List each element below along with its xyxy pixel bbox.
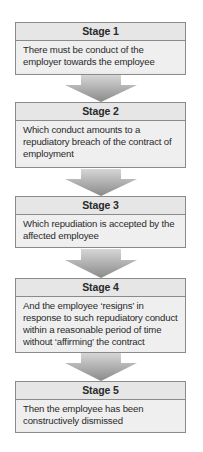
stage-4-title: Stage 4 <box>16 279 185 297</box>
down-arrow-icon <box>65 249 137 278</box>
stage-1-text: There must be conduct of the employer to… <box>16 41 185 72</box>
stage-3-box: Stage 3 Which repudiation is accepted by… <box>15 196 186 248</box>
stage-2-title: Stage 2 <box>16 103 185 121</box>
stage-5-text: Then the employee has been constructivel… <box>16 400 185 431</box>
stage-2-text: Which conduct amounts to a repudiatory b… <box>16 121 185 164</box>
stage-2-box: Stage 2 Which conduct amounts to a repud… <box>15 102 186 168</box>
stage-4-box: Stage 4 And the employee ‘resigns’ in re… <box>15 278 186 353</box>
stage-1-title: Stage 1 <box>16 23 185 41</box>
stage-5-title: Stage 5 <box>16 382 185 400</box>
stage-4-text: And the employee ‘resigns’ in response t… <box>16 297 185 352</box>
down-arrow-icon <box>65 169 137 196</box>
down-arrow-icon <box>65 75 137 102</box>
down-arrow-icon <box>65 353 137 381</box>
stage-3-title: Stage 3 <box>16 197 185 215</box>
stage-5-box: Stage 5 Then the employee has been const… <box>15 381 186 433</box>
stage-1-box: Stage 1 There must be conduct of the emp… <box>15 22 186 75</box>
stage-3-text: Which repudiation is accepted by the aff… <box>16 215 185 246</box>
